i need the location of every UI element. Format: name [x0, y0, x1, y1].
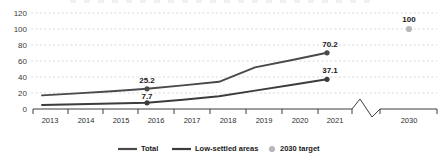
label-total-2021: 70.2 — [322, 40, 338, 49]
total-marker-2016 — [144, 86, 149, 91]
y-tick-80: 80 — [18, 41, 27, 50]
y-tick-60: 60 — [18, 57, 27, 66]
x-label-2021: 2021 — [327, 116, 344, 125]
x-label-2030: 2030 — [401, 116, 418, 125]
total-marker-2021 — [324, 50, 329, 55]
x-label-2017: 2017 — [184, 116, 201, 125]
target-marker-2030 — [406, 26, 412, 32]
legend-item-2030-target[interactable]: 2030 target — [269, 144, 320, 153]
low-settled-marker-2021 — [324, 77, 329, 82]
y-tick-100: 100 — [14, 25, 28, 34]
chart-svg: 120 100 80 60 40 20 0 2013 — [0, 0, 443, 164]
legend-label-low-settled: Low-settled areas — [195, 144, 258, 153]
gridlines — [31, 13, 437, 93]
x-axis-labels: 2013 2014 2015 2016 2017 2018 2019 2020 … — [42, 116, 418, 125]
legend-swatch-target-dot-icon — [269, 146, 275, 152]
label-target-2030: 100 — [402, 15, 416, 24]
x-label-2019: 2019 — [256, 116, 273, 125]
data-labels: 25.2 7.7 70.2 37.1 100 — [139, 15, 416, 101]
series-low-settled-areas — [42, 77, 330, 106]
label-low-2016: 7.7 — [141, 92, 153, 101]
line-chart: 120 100 80 60 40 20 0 2013 — [0, 0, 443, 164]
y-tick-20: 20 — [18, 89, 27, 98]
legend-item-low-settled-areas[interactable]: Low-settled areas — [172, 144, 258, 153]
x-label-2018: 2018 — [220, 116, 237, 125]
x-label-2015: 2015 — [113, 116, 130, 125]
y-tick-120: 120 — [14, 9, 28, 18]
x-label-2020: 2020 — [292, 116, 309, 125]
y-tick-40: 40 — [18, 73, 27, 82]
legend-item-total[interactable]: Total — [118, 144, 158, 153]
chart-legend: Total Low-settled areas 2030 target — [118, 144, 320, 153]
x-axis-baseline-with-break — [33, 99, 437, 117]
label-total-2016: 25.2 — [139, 76, 155, 85]
x-axis — [33, 99, 437, 117]
series-2030-target — [406, 26, 412, 32]
legend-label-2030-target: 2030 target — [280, 144, 320, 153]
x-label-2014: 2014 — [78, 116, 95, 125]
y-axis-labels: 120 100 80 60 40 20 0 — [14, 9, 28, 114]
y-tick-0: 0 — [23, 105, 28, 114]
x-label-2016: 2016 — [148, 116, 165, 125]
total-line-path — [42, 53, 327, 96]
legend-label-total: Total — [141, 144, 158, 153]
series-total — [42, 50, 330, 95]
label-low-2021: 37.1 — [322, 66, 338, 75]
x-label-2013: 2013 — [42, 116, 59, 125]
